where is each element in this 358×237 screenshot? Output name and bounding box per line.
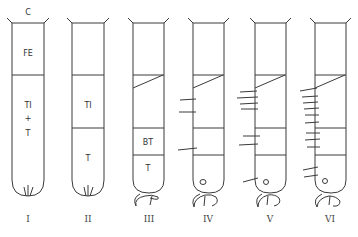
tube-4 (178, 18, 229, 207)
zone-t: T (25, 129, 31, 138)
numeral-3: III (144, 214, 155, 224)
numeral-1: I (26, 214, 30, 224)
label-c: C (25, 8, 31, 17)
zone-ti: TI (23, 101, 31, 110)
numeral-4: IV (203, 214, 214, 224)
numeral-6: VI (324, 214, 335, 224)
zone-bt: BT (143, 138, 153, 147)
numeral-2: II (84, 214, 92, 224)
zone-ti: TI (83, 101, 91, 110)
tube-3 (128, 18, 169, 206)
zone-t: T (145, 164, 151, 173)
tube-6 (300, 18, 351, 207)
zone-plus: + (25, 114, 32, 123)
tube-5 (237, 18, 291, 207)
zone-t: T (85, 154, 91, 163)
zone-fe: FE (23, 49, 33, 58)
tube-diagram: C FE TI + T TI T BT T (0, 0, 358, 237)
numeral-5: V (266, 214, 274, 224)
